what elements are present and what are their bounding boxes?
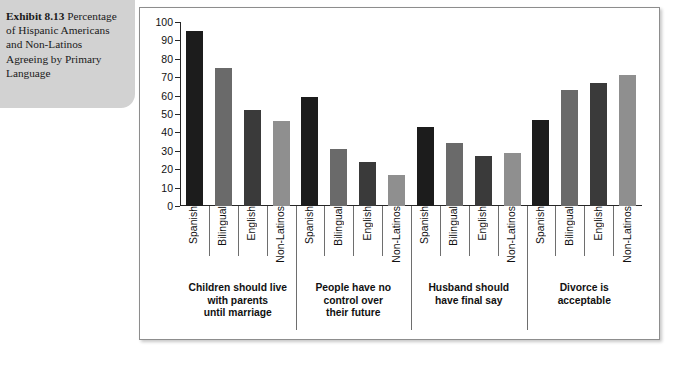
group-divider [411,206,412,330]
bar [446,143,463,206]
exhibit-caption-text: Exhibit 8.13 Percentage of Hispanic Amer… [6,9,125,80]
group-titles-layer: Children should livewith parentsuntil ma… [180,280,642,332]
bar-label-spanish: Spanish [535,206,546,244]
bar-label-non-latinos: Non-Latinos [506,206,517,263]
bar-label-spanish: Spanish [304,206,315,244]
bar-label-bilingual: Bilingual [564,206,575,246]
label-separator [382,206,383,256]
y-tick-label-10: 10 [161,182,173,194]
bar-label-english: English [246,206,257,240]
label-separator [469,206,470,256]
label-separator [584,206,585,256]
bars-layer [180,22,642,206]
label-separator [353,206,354,256]
bar [475,156,492,206]
bar [244,110,261,206]
bar [532,120,549,206]
label-separator [440,206,441,256]
bar-label-non-latinos: Non-Latinos [275,206,286,263]
y-tick-label-90: 90 [161,34,173,46]
y-tick-label-100: 100 [155,16,173,28]
exhibit-number: Exhibit 8.13 [6,10,64,22]
group-title-line: Divorce is [527,282,643,295]
label-separator [238,206,239,256]
bar-label-english: English [477,206,488,240]
group-divider [296,206,297,330]
y-tick-label-50: 50 [161,108,173,120]
group-title: Husband shouldhave final say [411,282,527,307]
y-tick-label-40: 40 [161,126,173,138]
bar-label-bilingual: Bilingual [448,206,459,246]
label-separator [324,206,325,256]
bar-label-bilingual: Bilingual [217,206,228,246]
bar [273,121,290,206]
group-title-line: Husband should [411,282,527,295]
label-separator [613,206,614,256]
bar-label-non-latinos: Non-Latinos [391,206,402,263]
y-tick-label-0: 0 [167,200,173,212]
label-separator [498,206,499,256]
y-tick-label-60: 60 [161,90,173,102]
bar [186,31,203,206]
bar-label-spanish: Spanish [188,206,199,244]
bar [504,153,521,206]
bar [590,83,607,206]
bar-label-english: English [593,206,604,240]
group-title-line: their future [296,307,412,320]
label-separator [209,206,210,256]
y-tick-label-20: 20 [161,163,173,175]
bar [330,149,347,206]
group-title: People have nocontrol overtheir future [296,282,412,320]
bar-label-spanish: Spanish [419,206,430,244]
group-title-line: with parents [180,295,296,308]
bar [417,127,434,206]
group-title-line: Children should live [180,282,296,295]
group-divider [527,206,528,330]
bar [301,97,318,206]
bar [388,175,405,206]
bar [359,162,376,206]
group-title-line: until marriage [180,307,296,320]
bar-label-english: English [362,206,373,240]
chart-figure-frame: 0102030405060708090100 SpanishBilingualE… [139,7,660,340]
bar [561,90,578,206]
label-separator [555,206,556,256]
y-tick-label-80: 80 [161,53,173,65]
bar-label-bilingual: Bilingual [333,206,344,246]
label-separator [267,206,268,256]
group-title: Children should livewith parentsuntil ma… [180,282,296,320]
plot-area: 0102030405060708090100 [180,22,642,206]
group-title: Divorce isacceptable [527,282,643,307]
bar [215,68,232,206]
group-title-line: have final say [411,295,527,308]
bar-label-non-latinos: Non-Latinos [622,206,633,263]
exhibit-caption-box: Exhibit 8.13 Percentage of Hispanic Amer… [0,0,135,108]
group-title-line: People have no [296,282,412,295]
y-tick-label-70: 70 [161,71,173,83]
bar [619,75,636,206]
group-title-line: acceptable [527,295,643,308]
y-tick-label-30: 30 [161,145,173,157]
group-title-line: control over [296,295,412,308]
